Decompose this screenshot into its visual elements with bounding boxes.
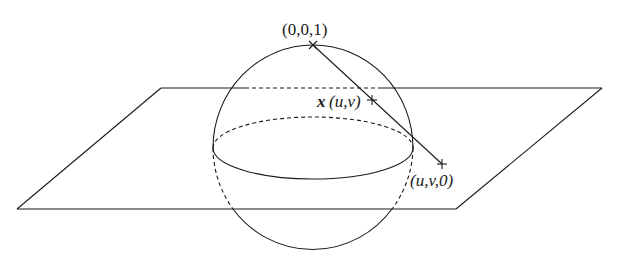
sphere-point-args-label: (u,v) <box>329 92 361 111</box>
north-pole-label: (0,0,1) <box>282 20 327 39</box>
equator-back-hidden <box>213 117 413 148</box>
equator-front <box>213 148 413 179</box>
sphere-lower-left-hidden <box>213 148 233 209</box>
stereographic-projection-diagram: (0,0,1) x (u,v) (u,v,0) <box>0 0 619 261</box>
plane-point-label: (u,v,0) <box>410 171 453 190</box>
plane-right-edge <box>456 88 602 209</box>
plane-left-edge <box>17 88 161 209</box>
sphere-bottom-outline <box>233 209 392 250</box>
sphere-upper-outline <box>213 45 413 148</box>
sphere-point-vector-label: x <box>316 92 326 111</box>
